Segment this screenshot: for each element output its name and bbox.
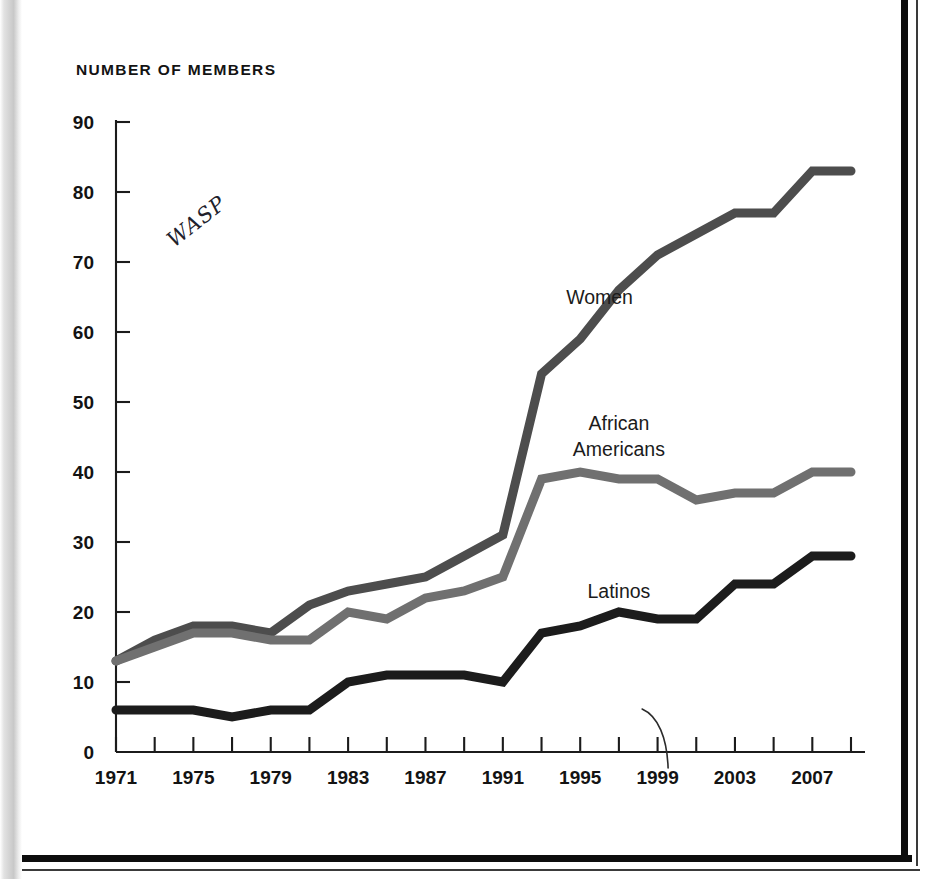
x-axis-ticks xyxy=(116,737,851,752)
series-label-african: AfricanAmericans xyxy=(573,412,665,460)
y-tick-label: 20 xyxy=(73,602,94,623)
series-label-latinos: Latinos xyxy=(587,580,650,602)
y-tick-label: 90 xyxy=(73,112,94,133)
page-border-right xyxy=(901,0,908,856)
series-line-african-americans xyxy=(116,472,851,661)
y-tick-label: 70 xyxy=(73,252,94,273)
handwritten-wasp-note: WASP xyxy=(162,191,231,252)
x-tick-label: 1995 xyxy=(559,767,602,788)
x-tick-label: 1975 xyxy=(172,767,215,788)
x-tick-label: 1987 xyxy=(404,767,446,788)
x-tick-label: 2003 xyxy=(714,767,756,788)
y-axis-labels: 0102030405060708090 xyxy=(73,112,94,763)
y-tick-label: 0 xyxy=(83,742,94,763)
y-tick-label: 40 xyxy=(73,462,94,483)
page-border-bottom-outer xyxy=(22,869,920,871)
scanned-page: NUMBER OF MEMBERS 0102030405060708090 19… xyxy=(0,0,927,879)
y-tick-label: 30 xyxy=(73,532,94,553)
y-tick-label: 50 xyxy=(73,392,94,413)
x-tick-label: 1979 xyxy=(250,767,292,788)
x-axis-labels: 1971197519791983198719911995199920032007 xyxy=(95,767,834,788)
data-series-group xyxy=(116,171,851,717)
y-axis-ticks xyxy=(116,122,130,682)
x-tick-label: 1999 xyxy=(636,767,678,788)
x-tick-label: 1971 xyxy=(95,767,138,788)
x-tick-label: 2007 xyxy=(791,767,833,788)
stray-pen-mark xyxy=(642,709,668,768)
series-label-women: Women xyxy=(566,286,633,308)
page-border-right-outer xyxy=(916,0,918,866)
handwritten-annotation-group: WASP xyxy=(162,191,231,252)
y-tick-label: 10 xyxy=(73,672,94,693)
x-tick-label: 1991 xyxy=(482,767,525,788)
y-tick-label: 60 xyxy=(73,322,94,343)
chart-plot-svg: 0102030405060708090 19711975197919831987… xyxy=(0,0,900,830)
page-border-bottom xyxy=(22,855,912,862)
line-chart: NUMBER OF MEMBERS 0102030405060708090 19… xyxy=(0,0,900,830)
x-tick-label: 1983 xyxy=(327,767,369,788)
y-tick-label: 80 xyxy=(73,182,94,203)
